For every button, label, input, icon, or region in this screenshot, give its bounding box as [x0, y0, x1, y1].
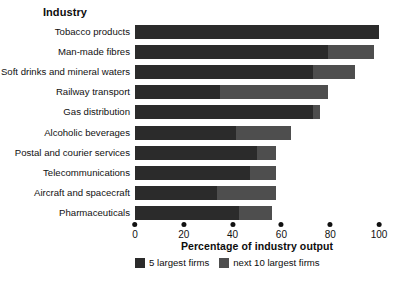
legend-item: next 10 largest firms: [219, 257, 319, 268]
stacked-bar: [135, 45, 377, 59]
tick-dot-icon: [133, 222, 138, 227]
stacked-bar: [135, 105, 347, 119]
bar-row: Gas distribution: [135, 105, 379, 119]
legend-swatch: [135, 258, 145, 268]
tick-label: 60: [276, 229, 287, 240]
bar-segment: [135, 25, 379, 39]
bar-segment: [257, 146, 276, 160]
bar-segment: [135, 166, 250, 180]
bar-segment: [250, 166, 276, 180]
bar-segment: [135, 206, 239, 220]
category-label: Soft drinks and mineral waters: [1, 65, 130, 79]
tick-dot-icon: [230, 222, 235, 227]
bar-rows: Tobacco productsMan-made fibresSoft drin…: [135, 25, 379, 220]
chart-legend: 5 largest firmsnext 10 largest firms: [135, 257, 385, 268]
stacked-bar: [135, 146, 320, 160]
x-axis-tick: 80: [325, 222, 336, 240]
legend-swatch: [219, 258, 229, 268]
stacked-bar: [135, 206, 318, 220]
bar-segment: [217, 186, 276, 200]
stacked-bar: [135, 186, 320, 200]
bar-segment: [135, 65, 313, 79]
stacked-bar: [135, 166, 320, 180]
legend-item: 5 largest firms: [135, 257, 209, 268]
bar-row: Aircraft and spacecraft: [135, 186, 379, 200]
category-label: Man-made fibres: [58, 45, 130, 59]
category-label: Postal and courier services: [15, 146, 130, 160]
bar-row: Soft drinks and mineral waters: [135, 65, 379, 79]
bar-segment: [135, 45, 328, 59]
legend-label: next 10 largest firms: [233, 257, 319, 268]
x-axis-tick: 100: [371, 222, 388, 240]
bar-row: Postal and courier services: [135, 146, 379, 160]
bar-row: Pharmaceuticals: [135, 206, 379, 220]
category-label: Tobacco products: [55, 25, 130, 39]
x-axis-title: Percentage of industry output: [135, 240, 379, 252]
bar-segment: [313, 65, 355, 79]
x-axis-tick: 20: [178, 222, 189, 240]
bar-row: Tobacco products: [135, 25, 379, 39]
tick-label: 100: [371, 229, 388, 240]
industry-concentration-chart: Industry Tobacco productsMan-made fibres…: [0, 0, 395, 286]
category-label: Pharmaceuticals: [59, 206, 130, 220]
tick-label: 80: [325, 229, 336, 240]
bar-segment: [135, 105, 313, 119]
bar-row: Telecommunications: [135, 166, 379, 180]
stacked-bar: [135, 25, 379, 39]
bar-segment: [313, 105, 319, 119]
category-label: Telecommunications: [43, 166, 130, 180]
stacked-bar: [135, 65, 367, 79]
stacked-bar: [135, 126, 330, 140]
bar-row: Railway transport: [135, 85, 379, 99]
category-label: Gas distribution: [63, 105, 130, 119]
x-axis-tick: 40: [227, 222, 238, 240]
stacked-bar: [135, 85, 352, 99]
bar-row: Man-made fibres: [135, 45, 379, 59]
bar-segment: [135, 186, 217, 200]
bar-segment: [135, 146, 257, 160]
bar-segment: [220, 85, 329, 99]
column-header-industry: Industry: [0, 6, 130, 18]
bar-row: Alcoholic beverages: [135, 126, 379, 140]
bar-segment: [135, 85, 220, 99]
tick-label: 40: [227, 229, 238, 240]
bar-segment: [236, 126, 291, 140]
tick-dot-icon: [181, 222, 186, 227]
category-label: Railway transport: [56, 85, 130, 99]
tick-dot-icon: [377, 222, 382, 227]
plot-area: Tobacco productsMan-made fibresSoft drin…: [135, 25, 379, 220]
tick-label: 0: [132, 229, 138, 240]
tick-label: 20: [178, 229, 189, 240]
bar-segment: [135, 126, 236, 140]
bar-segment: [328, 45, 374, 59]
category-label: Aircraft and spacecraft: [34, 186, 130, 200]
tick-dot-icon: [328, 222, 333, 227]
x-axis-tick: 60: [276, 222, 287, 240]
bar-segment: [239, 206, 272, 220]
x-axis-tick: 0: [132, 222, 138, 240]
legend-label: 5 largest firms: [149, 257, 209, 268]
tick-dot-icon: [279, 222, 284, 227]
category-label: Alcoholic beverages: [44, 126, 130, 140]
